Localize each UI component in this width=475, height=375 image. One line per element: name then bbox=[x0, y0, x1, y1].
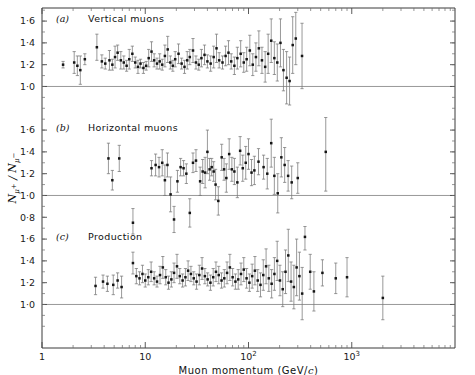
data-point bbox=[123, 61, 126, 64]
data-point bbox=[293, 286, 296, 289]
data-point bbox=[245, 58, 248, 61]
data-point bbox=[138, 277, 141, 280]
data-point bbox=[134, 61, 137, 64]
panel-c: 1·61·41·21·0(c)Production bbox=[20, 227, 455, 327]
panel-a: 1·61·41·21·0(a)Vertical muons bbox=[20, 10, 455, 108]
x-tick-label: 1 bbox=[39, 351, 45, 362]
data-point bbox=[273, 57, 276, 60]
data-point bbox=[147, 57, 150, 60]
data-point bbox=[73, 61, 76, 64]
y-tick-label: 0·8 bbox=[20, 212, 35, 223]
data-point bbox=[118, 157, 121, 160]
data-point bbox=[156, 280, 159, 283]
data-point bbox=[206, 60, 209, 63]
data-point bbox=[201, 170, 204, 173]
data-point bbox=[189, 56, 192, 59]
panel-letter-b: (b) bbox=[56, 122, 70, 133]
y-tick-label: 1·2 bbox=[20, 277, 35, 288]
data-point bbox=[162, 266, 165, 269]
data-point bbox=[137, 66, 140, 69]
data-point bbox=[142, 67, 145, 70]
data-point bbox=[242, 167, 245, 170]
data-point bbox=[282, 69, 285, 72]
data-point bbox=[187, 269, 190, 272]
data-point bbox=[244, 162, 247, 165]
data-point bbox=[225, 177, 228, 180]
data-point bbox=[101, 60, 104, 63]
data-series-b bbox=[107, 118, 328, 235]
data-point bbox=[158, 166, 161, 169]
y-tick-label: 1·6 bbox=[20, 124, 35, 135]
data-point bbox=[261, 59, 264, 62]
data-point bbox=[108, 59, 111, 62]
data-point bbox=[217, 274, 220, 277]
data-point bbox=[287, 254, 290, 257]
data-point bbox=[209, 281, 212, 284]
data-point bbox=[309, 271, 312, 274]
data-point bbox=[325, 151, 328, 154]
data-point bbox=[298, 275, 301, 278]
data-point bbox=[313, 290, 316, 293]
data-point bbox=[176, 265, 179, 268]
data-point bbox=[114, 56, 117, 59]
data-point bbox=[102, 280, 105, 283]
data-point bbox=[270, 39, 273, 42]
data-point bbox=[243, 61, 246, 64]
data-point bbox=[96, 46, 99, 49]
data-point bbox=[212, 56, 215, 59]
data-point bbox=[240, 273, 243, 276]
data-point bbox=[144, 279, 147, 282]
data-point bbox=[224, 55, 227, 58]
data-point bbox=[288, 80, 291, 83]
data-point bbox=[166, 164, 169, 167]
x-tick-label: 102 bbox=[240, 350, 257, 362]
data-point bbox=[161, 63, 164, 66]
chart-canvas: 110102103Muon momentum (GeV/c)Nμ+ / Nμ−1… bbox=[0, 0, 475, 375]
data-point bbox=[210, 166, 213, 169]
data-point bbox=[150, 271, 153, 274]
data-point bbox=[169, 61, 172, 64]
data-point bbox=[227, 51, 230, 54]
data-point bbox=[112, 284, 115, 287]
data-point bbox=[276, 260, 279, 263]
data-point bbox=[268, 277, 271, 280]
data-point bbox=[203, 54, 206, 57]
data-point bbox=[161, 162, 164, 165]
data-point bbox=[215, 271, 218, 274]
data-point bbox=[116, 51, 119, 54]
data-point bbox=[253, 169, 256, 172]
data-point bbox=[132, 262, 135, 265]
data-point bbox=[250, 171, 253, 174]
data-point bbox=[166, 48, 169, 51]
panel-title-b: Horizontal muons bbox=[88, 122, 178, 133]
data-point bbox=[295, 266, 298, 269]
data-point bbox=[131, 53, 134, 56]
data-point bbox=[281, 288, 284, 291]
data-point bbox=[283, 164, 286, 167]
data-point bbox=[116, 279, 119, 282]
data-point bbox=[158, 60, 161, 63]
data-point bbox=[346, 276, 349, 279]
data-point bbox=[249, 49, 252, 52]
y-axis-title: Nμ+ / Nμ− bbox=[6, 152, 21, 204]
data-point bbox=[280, 156, 283, 159]
panel-letter-c: (c) bbox=[56, 231, 69, 242]
data-point bbox=[195, 159, 198, 162]
data-point bbox=[239, 53, 242, 56]
data-point bbox=[290, 280, 293, 283]
data-point bbox=[256, 279, 259, 282]
x-tick-label: 10 bbox=[139, 351, 151, 362]
data-point bbox=[259, 284, 262, 287]
data-point bbox=[255, 56, 258, 59]
data-point bbox=[185, 172, 188, 175]
data-point bbox=[212, 276, 215, 279]
data-point bbox=[234, 280, 237, 283]
data-point bbox=[159, 274, 162, 277]
data-point bbox=[248, 281, 251, 284]
data-point bbox=[277, 192, 280, 195]
data-point bbox=[267, 53, 270, 56]
data-point bbox=[62, 63, 65, 66]
panel-title-a: Vertical muons bbox=[88, 13, 164, 24]
data-point bbox=[156, 62, 159, 64]
data-point bbox=[132, 221, 135, 224]
